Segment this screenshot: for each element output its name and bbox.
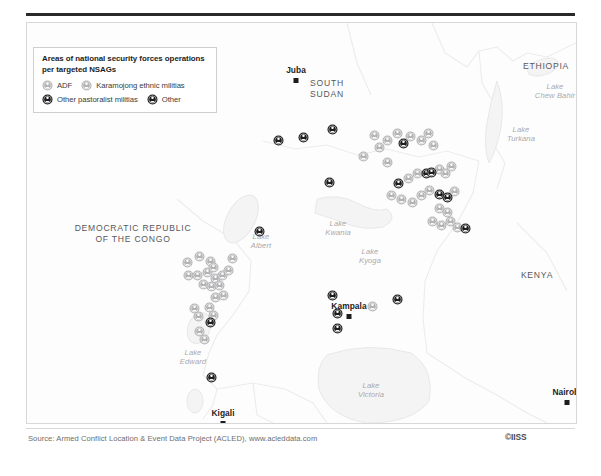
operation-marker[interactable] [206, 372, 217, 383]
operation-marker[interactable] [273, 135, 284, 146]
operation-marker[interactable] [369, 130, 380, 141]
legend-item-other[interactable]: Other [147, 94, 181, 105]
operation-marker[interactable] [199, 334, 210, 345]
legend-row: Other pastoralist militias Other [42, 94, 209, 105]
map-figure: SOUTH SUDAN ETHIOPIA DEMOCRATIC REPUBLIC… [0, 0, 601, 476]
operation-marker[interactable] [460, 223, 471, 234]
operation-marker[interactable] [193, 311, 204, 322]
top-rule [26, 13, 575, 16]
operation-marker[interactable] [327, 124, 338, 135]
operation-marker[interactable] [396, 194, 407, 205]
operation-marker[interactable] [382, 157, 393, 168]
operation-marker[interactable] [426, 167, 437, 178]
operation-marker[interactable] [423, 128, 434, 139]
capital-marker-juba [294, 78, 299, 83]
legend-item-adf[interactable]: ADF [42, 80, 72, 91]
operation-marker[interactable] [205, 317, 216, 328]
legend-title: Areas of national security forces operat… [42, 54, 209, 75]
operation-marker[interactable] [227, 253, 238, 264]
capital-marker-kampala [347, 314, 352, 319]
person-pin-icon [42, 94, 53, 105]
capital-marker-kigali [221, 421, 226, 424]
operation-marker[interactable] [223, 265, 234, 276]
operation-marker[interactable] [398, 138, 409, 149]
person-pin-icon [147, 94, 158, 105]
legend-item-label: Karamojong ethnic militias [96, 81, 184, 90]
operation-marker[interactable] [332, 323, 343, 334]
person-pin-icon [42, 80, 53, 91]
operation-marker[interactable] [218, 290, 229, 301]
operation-marker[interactable] [392, 294, 403, 305]
legend-item-karamojong-ethnic-militias[interactable]: Karamojong ethnic militias [81, 80, 184, 91]
legend-item-label: Other [162, 95, 181, 104]
operation-marker[interactable] [367, 301, 378, 312]
operation-marker[interactable] [446, 161, 457, 172]
legend-item-label: ADF [57, 81, 72, 90]
operation-marker[interactable] [324, 177, 335, 188]
person-pin-icon [81, 80, 92, 91]
operation-marker[interactable] [327, 290, 338, 301]
operation-marker[interactable] [254, 226, 265, 237]
operation-marker[interactable] [428, 140, 439, 151]
operation-marker[interactable] [298, 132, 309, 143]
map-canvas: SOUTH SUDAN ETHIOPIA DEMOCRATIC REPUBLIC… [26, 22, 577, 424]
footer-rule [26, 428, 575, 429]
legend-item-other-pastoralist-militias[interactable]: Other pastoralist militias [42, 94, 138, 105]
operation-marker[interactable] [182, 257, 193, 268]
legend-row: ADF Karamojong ethnic militias [42, 80, 209, 91]
operation-marker[interactable] [194, 251, 205, 262]
capital-marker-nairobi [565, 400, 570, 405]
legend-item-label: Other pastoralist militias [57, 95, 138, 104]
operation-marker[interactable] [332, 308, 343, 319]
operation-marker[interactable] [393, 178, 404, 189]
operation-marker[interactable] [358, 151, 369, 162]
source-caption: Source: Armed Conflict Location & Event … [28, 434, 317, 443]
copyright-label: ©IISS [505, 432, 527, 442]
map-legend: Areas of national security forces operat… [33, 47, 217, 113]
operation-marker[interactable] [442, 192, 453, 203]
